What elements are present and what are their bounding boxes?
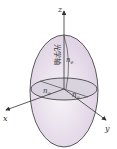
optical-axis-label: 光学轴 — [53, 44, 62, 65]
z-axis-label: z — [57, 5, 63, 14]
index-ellipsoid-diagram: z x y 光学轴 ne no no — [0, 0, 117, 149]
x-axis-label: x — [3, 114, 8, 123]
y-axis-label: y — [104, 124, 110, 133]
